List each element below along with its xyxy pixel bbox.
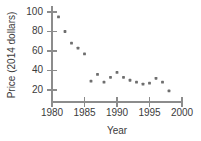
data-point xyxy=(116,71,119,74)
data-point xyxy=(135,81,138,84)
data-point xyxy=(57,15,60,18)
data-point xyxy=(161,81,164,84)
data-point xyxy=(142,83,145,86)
data-point xyxy=(103,81,106,84)
x-tick-label-1980: 1980 xyxy=(41,107,64,118)
y-tick-label-60: 60 xyxy=(32,45,44,56)
data-point xyxy=(70,42,73,45)
data-points-layer xyxy=(57,15,170,92)
x-tick-label-1995: 1995 xyxy=(138,107,161,118)
x-tick-label-1985: 1985 xyxy=(73,107,96,118)
data-point xyxy=(148,82,151,85)
data-point xyxy=(96,73,99,76)
data-point xyxy=(109,76,112,79)
x-tick-label-2000: 2000 xyxy=(171,107,194,118)
data-point xyxy=(122,76,125,79)
y-tick-label-20: 20 xyxy=(32,84,44,95)
y-tick-label-100: 100 xyxy=(26,6,43,17)
y-tick-label-80: 80 xyxy=(32,25,44,36)
y-axis-title: Price (2014 dollars) xyxy=(6,12,17,99)
y-tick-label-40: 40 xyxy=(32,64,44,75)
x-axis-title: Year xyxy=(107,125,128,136)
x-tick-label-1990: 1990 xyxy=(106,107,129,118)
data-point xyxy=(155,77,158,80)
scatter-chart: Price (2014 dollars) 100 80 60 40 20 198… xyxy=(0,0,201,141)
data-point xyxy=(64,30,67,33)
chart-canvas: Price (2014 dollars) 100 80 60 40 20 198… xyxy=(0,0,201,141)
data-point xyxy=(129,79,132,82)
data-point xyxy=(90,80,93,83)
data-point xyxy=(83,53,86,56)
data-point xyxy=(77,47,80,50)
data-point xyxy=(168,90,171,93)
